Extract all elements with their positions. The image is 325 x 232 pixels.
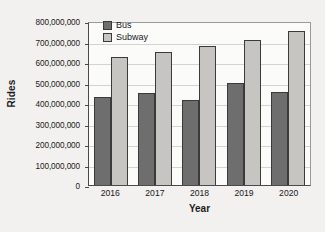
bar-groups (89, 23, 310, 185)
y-axis-tick-label: 200,000,000 (36, 141, 80, 150)
legend-swatch-subway-icon (103, 33, 112, 42)
y-axis-tick-labels: 0100,000,000200,000,000300,000,000400,00… (18, 22, 84, 186)
bar-group (271, 31, 305, 185)
bar-group (94, 57, 128, 185)
bar-group (182, 46, 216, 185)
x-axis-tick-label: 2020 (271, 188, 307, 198)
y-axis-title-text: Rides (6, 79, 17, 107)
legend-swatch-bus-icon (103, 21, 112, 30)
bar-bus-2019 (227, 83, 244, 185)
y-axis-tick-label: 800,000,000 (36, 18, 80, 27)
bar-subway-2018 (199, 46, 216, 185)
legend-label: Bus (116, 21, 132, 30)
x-axis-tick-label: 2019 (226, 188, 262, 198)
bar-bus-2018 (182, 100, 199, 185)
y-axis-tick-label: 300,000,000 (36, 120, 80, 129)
bar-chart: Rides 0100,000,000200,000,000300,000,000… (0, 0, 325, 232)
bar-group (138, 52, 172, 185)
bar-subway-2020 (288, 31, 305, 185)
plot-area (88, 22, 311, 186)
y-axis-tick-label: 600,000,000 (36, 59, 80, 68)
legend-item-subway: Subway (103, 33, 148, 42)
bar-subway-2019 (244, 40, 261, 185)
y-axis-tick-label: 400,000,000 (36, 100, 80, 109)
y-axis-tick-label: 0 (76, 182, 80, 191)
bar-bus-2016 (94, 97, 111, 185)
legend-label: Subway (116, 33, 148, 42)
x-axis-tick-label: 2016 (92, 188, 128, 198)
bar-subway-2016 (111, 57, 128, 185)
y-axis-tick-label: 100,000,000 (36, 161, 80, 170)
x-axis-tick-label: 2017 (137, 188, 173, 198)
bar-bus-2020 (271, 92, 288, 185)
y-axis-tick-label: 500,000,000 (36, 79, 80, 88)
x-axis-title: Year (88, 203, 311, 214)
bar-subway-2017 (155, 52, 172, 185)
bar-bus-2017 (138, 93, 155, 185)
y-axis-tick-label: 700,000,000 (36, 38, 80, 47)
bar-group (227, 40, 261, 185)
x-axis-tick-labels: 20162017201820192020 (88, 188, 311, 202)
legend-item-bus: Bus (103, 21, 148, 30)
chart-legend: BusSubway (101, 20, 150, 43)
x-axis-tick-label: 2018 (181, 188, 217, 198)
